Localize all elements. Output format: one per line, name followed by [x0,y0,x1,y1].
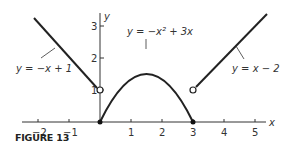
line-left-piece [34,18,97,88]
x-tick-label: 4 [221,127,227,138]
x-tick-label: 1 [128,127,134,138]
y-tick-label: 2 [91,53,97,64]
x-tick-label: 5 [252,127,258,138]
closed-point-three [191,120,196,125]
line-right-piece [196,14,267,87]
label-right-function: y = x − 2 [231,63,280,74]
label-middle-function: y = −x² + 3x [126,26,193,37]
closed-point-origin [98,120,103,125]
open-point-right [190,87,196,93]
label-left-function: y = −x + 1 [15,63,72,74]
x-tick-label: 2 [159,127,165,138]
x-axis-label: x [268,117,275,128]
leader-right [236,46,244,59]
y-axis-label: y [103,11,111,22]
leader-left [41,48,55,58]
open-point-left [97,87,103,93]
parabola-piece [100,74,193,122]
y-tick-label: 3 [91,21,97,32]
figure-caption: FIGURE 13 [15,132,69,143]
x-tick-label: 3 [190,127,196,138]
y-ticks [100,26,104,90]
